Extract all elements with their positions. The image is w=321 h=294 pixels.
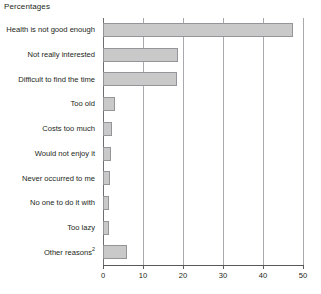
tick-mark-40: [263, 265, 264, 269]
bar-row: [103, 92, 303, 117]
category-label: Would not enjoy it: [0, 149, 99, 159]
bar-row: [103, 142, 303, 167]
category-label: Not really interested: [0, 50, 99, 60]
category-label: Other reasons2: [0, 248, 99, 258]
tick-mark-30: [223, 265, 224, 269]
bar-row: [103, 166, 303, 191]
category-label: Health is not good enough: [0, 25, 99, 35]
category-label: Too lazy: [0, 223, 99, 233]
x-tick-label-30: 30: [219, 271, 227, 281]
bar: [103, 196, 109, 210]
bar: [103, 72, 177, 86]
bar: [103, 245, 127, 259]
bar: [103, 171, 110, 185]
x-tick-label-50: 50: [299, 271, 307, 281]
bar: [103, 23, 293, 37]
bar-row: [103, 18, 303, 43]
x-tick-label-40: 40: [259, 271, 267, 281]
bar-row: [103, 43, 303, 68]
tick-mark-50: [303, 265, 304, 269]
x-tick-label-0: 0: [101, 271, 105, 281]
chart-title: Percentages: [4, 1, 50, 12]
gridline-50: [303, 18, 304, 265]
percentages-bar-chart: Percentages Health is not good enoughNot…: [0, 0, 321, 294]
bar: [103, 221, 109, 235]
category-label: Never occurred to me: [0, 174, 99, 184]
bar-row: [103, 117, 303, 142]
x-axis-tick-labels: 01020304050: [0, 271, 321, 285]
bar: [103, 122, 112, 136]
bar-row: [103, 67, 303, 92]
tick-mark-20: [183, 265, 184, 269]
bar: [103, 97, 115, 111]
bar-row: [103, 240, 303, 265]
category-label: Costs too much: [0, 124, 99, 134]
category-label: Difficult to find the time: [0, 75, 99, 85]
x-tick-label-20: 20: [179, 271, 187, 281]
category-axis-labels: Health is not good enoughNot really inte…: [0, 18, 99, 265]
x-axis-line: [103, 265, 304, 266]
tick-mark-0: [103, 265, 104, 269]
x-tick-label-10: 10: [139, 271, 147, 281]
bar: [103, 147, 111, 161]
category-label: No one to do it with: [0, 198, 99, 208]
bar-row: [103, 216, 303, 241]
bar-row: [103, 191, 303, 216]
category-label: Too old: [0, 99, 99, 109]
plot-area: [103, 18, 303, 265]
bar: [103, 48, 178, 62]
tick-mark-10: [143, 265, 144, 269]
